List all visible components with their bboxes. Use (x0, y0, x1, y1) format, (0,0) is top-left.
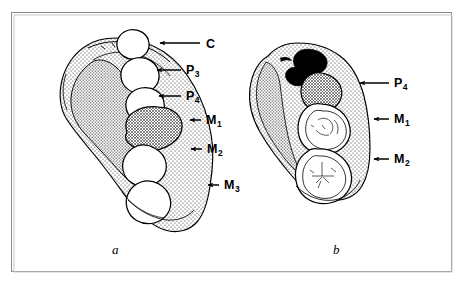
label-p4-a: P4 (186, 90, 199, 103)
specimen-b (249, 43, 370, 204)
label-canine-a: C (206, 38, 215, 51)
specimen-drawings (0, 0, 466, 286)
tooth-canine-a (117, 30, 149, 59)
tooth-m2-a (123, 145, 167, 186)
tooth-m3-a (126, 181, 170, 224)
label-m3-a: M3 (224, 179, 239, 192)
label-m1-b: M1 (394, 113, 409, 126)
label-m1-a: M1 (206, 114, 221, 127)
label-m2-b: M2 (394, 153, 409, 166)
specimen-a (60, 30, 213, 232)
figure-plate: C P3 P4 M1 M2 M3 P4 M1 M2 a b (0, 0, 466, 286)
label-m2-a: M2 (207, 143, 222, 156)
panel-caption-a: a (112, 243, 119, 256)
label-p3-a: P3 (186, 64, 199, 77)
label-p4-b: P4 (394, 77, 407, 90)
panel-caption-b: b (333, 243, 340, 256)
